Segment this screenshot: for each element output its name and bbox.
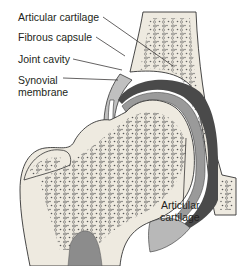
- label-articular-cartilage-bottom-line2: cartilage: [160, 211, 200, 223]
- label-joint-cavity: Joint cavity: [18, 53, 70, 65]
- label-articular-cartilage-top: Articular cartilage: [18, 11, 99, 23]
- label-synovial-membrane-line1: Synovial: [18, 74, 58, 86]
- label-synovial-membrane-line2: membrane: [18, 86, 68, 98]
- label-fibrous-capsule: Fibrous capsule: [18, 31, 92, 43]
- label-articular-cartilage-bottom-line1: Articular: [161, 199, 200, 211]
